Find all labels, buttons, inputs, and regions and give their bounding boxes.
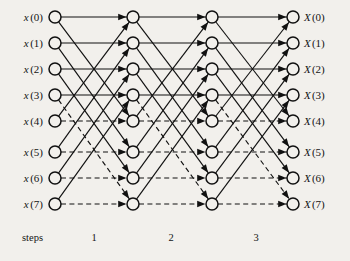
steps-tick-3: 3 [253, 232, 258, 243]
arrowhead-stage2-2-to-6 [201, 164, 208, 173]
input-label-index-2: (2) [30, 63, 43, 76]
node-col2-row0[interactable] [206, 11, 218, 23]
arrowhead-stage1-3-to-7 [122, 190, 129, 199]
steps-caption: steps [22, 232, 43, 243]
node-col2-row5[interactable] [206, 146, 218, 158]
output-label-index-7: (7) [312, 198, 325, 211]
input-label-name-6: x [23, 172, 29, 184]
arrowhead-stage3-6-to-6 [278, 175, 286, 181]
arrowhead-stage3-1-to-5 [282, 138, 289, 146]
node-col1-row2[interactable] [127, 63, 139, 75]
arrowhead-stage2-1-to-5 [201, 138, 208, 147]
node-col0-row7[interactable] [49, 198, 61, 210]
output-label-index-1: (1) [312, 37, 325, 50]
arrowhead-stage3-2-to-2 [278, 66, 286, 72]
output-label-index-3: (3) [312, 89, 325, 102]
output-label-6: X(6) [303, 172, 325, 185]
output-label-2: X(2) [303, 63, 325, 76]
arrowhead-stage1-7-to-7 [118, 201, 126, 207]
output-label-index-5: (5) [312, 146, 325, 159]
node-col0-row4[interactable] [49, 115, 61, 127]
steps-tick-1: 1 [91, 232, 96, 243]
node-col1-row5[interactable] [127, 146, 139, 158]
arrowhead-stage3-2-to-6 [282, 164, 289, 172]
node-col2-row2[interactable] [206, 63, 218, 75]
node-col0-row6[interactable] [49, 172, 61, 184]
node-col3-row7[interactable] [287, 198, 299, 210]
node-col0-row0[interactable] [49, 11, 61, 23]
node-col1-row4[interactable] [127, 115, 139, 127]
output-label-7: X(7) [303, 198, 325, 211]
input-label-name-4: x [23, 115, 29, 127]
node-col0-row3[interactable] [49, 89, 61, 101]
node-col3-row3[interactable] [287, 89, 299, 101]
input-label-name-3: x [23, 89, 29, 101]
fft-flow-graph-canvas: x(0)x(1)x(2)x(3)x(4)x(5)x(6)x(7)X(0)X(1)… [0, 0, 350, 261]
node-col2-row7[interactable] [206, 198, 218, 210]
input-label-index-0: (0) [30, 11, 43, 24]
node-col2-row1[interactable] [206, 37, 218, 49]
arrowhead-stage3-1-to-1 [278, 40, 286, 46]
arrowhead-stage2-5-to-1 [201, 48, 208, 57]
input-label-0: x(0) [23, 11, 44, 24]
node-col0-row1[interactable] [49, 37, 61, 49]
node-col3-row5[interactable] [287, 146, 299, 158]
output-label-index-2: (2) [312, 63, 325, 76]
arrowhead-stage3-5-to-5 [278, 149, 286, 155]
input-label-index-1: (1) [30, 37, 43, 50]
arrowhead-stage2-0-to-0 [197, 14, 205, 20]
arrowhead-stage2-1-to-1 [197, 40, 205, 46]
arrowhead-stage2-7-to-7 [197, 201, 205, 207]
output-label-index-0: (0) [312, 11, 325, 24]
output-label-name-1: X [303, 37, 312, 49]
arrowhead-stage2-4-to-0 [200, 22, 208, 30]
input-label-index-6: (6) [30, 172, 43, 185]
arrowhead-stage3-4-to-0 [281, 22, 289, 30]
input-label-1: x(1) [23, 37, 44, 50]
arrowhead-stage1-6-to-2 [122, 74, 129, 83]
input-label-index-3: (3) [30, 89, 43, 102]
arrowhead-stage2-5-to-5 [197, 149, 205, 155]
arrowhead-stage1-1-to-1 [118, 40, 126, 46]
node-col1-row1[interactable] [127, 37, 139, 49]
node-col1-row7[interactable] [127, 198, 139, 210]
output-label-3: X(3) [303, 89, 325, 102]
arrowhead-stage2-6-to-6 [197, 175, 205, 181]
input-label-2: x(2) [23, 63, 44, 76]
output-label-name-0: X [303, 11, 312, 23]
arrowhead-stage1-0-to-0 [118, 14, 126, 20]
arrowhead-stage1-2-to-6 [122, 164, 129, 173]
arrowhead-stage2-4-to-4 [197, 118, 205, 124]
node-col1-row6[interactable] [127, 172, 139, 184]
arrowhead-stage1-3-to-3 [118, 92, 126, 98]
input-label-7: x(7) [23, 198, 44, 211]
arrowhead-stage3-3-to-3 [278, 92, 286, 98]
node-col3-row6[interactable] [287, 172, 299, 184]
node-col2-row6[interactable] [206, 172, 218, 184]
output-label-0: X(0) [303, 11, 325, 24]
node-col3-row0[interactable] [287, 11, 299, 23]
input-label-index-7: (7) [30, 198, 43, 211]
arrowhead-stage1-5-to-1 [122, 48, 129, 57]
node-col1-row3[interactable] [127, 89, 139, 101]
node-col2-row3[interactable] [206, 89, 218, 101]
arrowhead-stage1-4-to-4 [118, 118, 126, 124]
node-col3-row1[interactable] [287, 37, 299, 49]
arrowhead-stage1-5-to-5 [118, 149, 126, 155]
node-col1-row0[interactable] [127, 11, 139, 23]
arrowhead-stage1-1-to-5 [122, 138, 129, 147]
node-col0-row5[interactable] [49, 146, 61, 158]
node-col2-row4[interactable] [206, 115, 218, 127]
arrowhead-stage1-2-to-2 [118, 66, 126, 72]
node-col0-row2[interactable] [49, 63, 61, 75]
input-label-name-1: x [23, 37, 29, 49]
input-label-name-2: x [23, 63, 29, 75]
input-label-index-5: (5) [30, 146, 43, 159]
input-label-name-0: x [23, 11, 29, 23]
node-col3-row2[interactable] [287, 63, 299, 75]
arrowhead-stage1-4-to-0 [122, 22, 129, 30]
input-label-5: x(5) [23, 146, 44, 159]
input-label-3: x(3) [23, 89, 44, 102]
node-col3-row4[interactable] [287, 115, 299, 127]
output-label-1: X(1) [303, 37, 325, 50]
